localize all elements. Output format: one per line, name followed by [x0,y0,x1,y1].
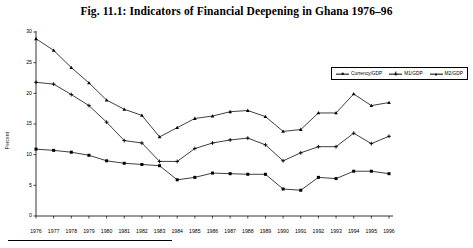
series-m2-gdp [34,37,391,138]
legend-item-label: M1/GDP [404,71,422,76]
chart-canvas [0,26,473,226]
y-tick-label: 0 [16,213,32,218]
y-axis-label: Percent [5,121,10,161]
y-tick-label: 20 [16,91,32,96]
legend-item-label: Currency/GDP [351,71,382,76]
page-title: Fig. 11.1: Indicators of Financial Deepe… [0,5,473,17]
y-tick-label: 5 [16,183,32,188]
figure-panel: Fig. 11.1: Indicators of Financial Deepe… [0,0,473,248]
horizontal-rule [8,240,172,241]
y-tick-label: 10 [16,152,32,157]
series-currency-gdp [35,148,391,192]
chart-legend: Currency/GDPM1/GDPM2/GDP [331,67,468,80]
y-tick-label: 15 [16,121,32,126]
x-tick-label: 1996 [377,228,401,234]
y-tick-label: 30 [16,29,32,34]
legend-item-currency-gdp: Currency/GDP [336,71,382,77]
legend-marker-triangle-icon [430,71,443,77]
chart-axes [34,31,394,219]
chart-series [34,37,391,192]
legend-item-label: M2/GDP [445,71,463,76]
legend-marker-square-icon [336,71,349,77]
y-tick-label: 25 [16,60,32,65]
chart-plot-area: Percent 051015202530 Currency/GDPM1/GDPM… [0,26,473,226]
series-m1-gdp [34,80,391,163]
y-axis-tick-labels: 051015202530 [12,26,32,226]
legend-item-m1-gdp: M1/GDP [389,71,422,77]
legend-item-m2-gdp: M2/GDP [430,71,463,77]
legend-marker-plus-icon [389,71,402,77]
